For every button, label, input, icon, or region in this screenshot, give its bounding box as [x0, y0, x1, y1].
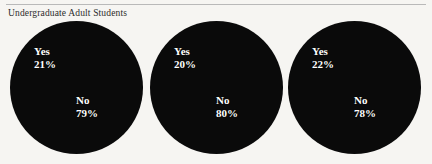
pie-3-yes-percent: 22%	[312, 58, 334, 71]
pie-3-yes-label: Yes 22%	[312, 45, 334, 71]
pie-2-disc	[150, 21, 283, 154]
figure-title: Undergraduate Adult Students	[8, 7, 127, 19]
pie-1-no-label: No 79%	[76, 94, 98, 120]
pie-2-yes-text: Yes	[174, 45, 190, 57]
pie-3-no-label: No 78%	[354, 94, 376, 120]
pie-1-disc	[10, 21, 143, 154]
pie-3-no-text: No	[354, 94, 367, 106]
pie-2-no-text: No	[216, 94, 229, 106]
top-divider-rule	[6, 4, 426, 5]
pie-3-no-percent: 78%	[354, 107, 376, 120]
pie-1-yes-percent: 21%	[34, 58, 56, 71]
pie-3-disc	[288, 21, 421, 154]
pie-2-no-label: No 80%	[216, 94, 238, 120]
pie-2-no-percent: 80%	[216, 107, 238, 120]
pie-1-no-text: No	[76, 94, 89, 106]
figure-panel: Undergraduate Adult Students Yes 21% No …	[0, 0, 432, 164]
pie-3-yes-text: Yes	[312, 45, 328, 57]
pie-chart-3: Yes 22% No 78%	[288, 21, 421, 154]
pie-chart-2: Yes 20% No 80%	[150, 21, 283, 154]
pie-2-yes-label: Yes 20%	[174, 45, 196, 71]
pie-1-yes-label: Yes 21%	[34, 45, 56, 71]
pie-1-yes-text: Yes	[34, 45, 50, 57]
pie-chart-1: Yes 21% No 79%	[10, 21, 143, 154]
pie-1-no-percent: 79%	[76, 107, 98, 120]
pie-chart-row: Yes 21% No 79% Yes 20% No 80% Yes	[0, 21, 432, 157]
pie-2-yes-percent: 20%	[174, 58, 196, 71]
